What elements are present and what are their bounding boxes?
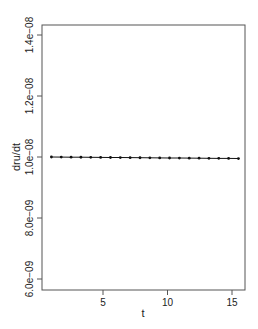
data-point bbox=[158, 156, 161, 159]
data-point bbox=[80, 156, 83, 159]
data-point bbox=[237, 157, 240, 160]
data-point bbox=[168, 157, 171, 160]
x-tick-label: 5 bbox=[100, 297, 106, 308]
data-series bbox=[50, 156, 240, 160]
data-point bbox=[99, 156, 102, 159]
y-axis-label: dru/dt bbox=[10, 143, 22, 171]
data-point bbox=[119, 156, 122, 159]
x-axis: 51015 bbox=[100, 290, 238, 308]
data-point bbox=[148, 156, 151, 159]
data-point bbox=[178, 157, 181, 160]
y-tick-label: 1.0e−08 bbox=[24, 138, 35, 175]
data-point bbox=[139, 156, 142, 159]
data-point bbox=[217, 157, 220, 160]
data-point bbox=[70, 156, 73, 159]
series-line bbox=[51, 157, 238, 159]
chart: 6.0e−098.0e−091.0e−081.2e−081.4e−08 5101… bbox=[0, 0, 258, 329]
y-tick-label: 1.2e−08 bbox=[24, 77, 35, 114]
y-tick-label: 8.0e−09 bbox=[24, 199, 35, 236]
y-tick-label: 6.0e−09 bbox=[24, 260, 35, 297]
data-point bbox=[208, 157, 211, 160]
data-point bbox=[227, 157, 230, 160]
data-point bbox=[198, 157, 201, 160]
data-point bbox=[188, 157, 191, 160]
data-point bbox=[50, 156, 53, 159]
x-axis-label: t bbox=[141, 307, 144, 319]
data-point bbox=[129, 156, 132, 159]
data-point bbox=[109, 156, 112, 159]
data-point bbox=[60, 156, 63, 159]
y-axis: 6.0e−098.0e−091.0e−081.2e−081.4e−08 bbox=[24, 16, 42, 297]
x-tick-label: 15 bbox=[226, 297, 238, 308]
x-tick-label: 10 bbox=[162, 297, 174, 308]
data-point bbox=[89, 156, 92, 159]
y-tick-label: 1.4e−08 bbox=[24, 16, 35, 53]
